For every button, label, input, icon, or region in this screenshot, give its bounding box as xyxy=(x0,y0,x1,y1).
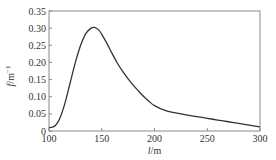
chart-canvas: 100150200250300 00.050.100.150.200.250.3… xyxy=(0,0,276,160)
y-tick-label: 0 xyxy=(41,126,46,137)
plot-frame xyxy=(49,11,260,131)
x-axis-label: l/m xyxy=(148,145,162,156)
line-chart: 100150200250300 00.050.100.150.200.250.3… xyxy=(0,0,276,160)
x-axis-ticks: 100150200250300 xyxy=(42,128,268,144)
y-tick-label: 0.20 xyxy=(29,57,47,68)
y-tick-label: 0.05 xyxy=(29,108,47,119)
y-tick-label: 0.35 xyxy=(29,6,47,17)
y-axis-ticks: 00.050.100.150.200.250.300.35 xyxy=(29,6,53,137)
y-tick-label: 0.30 xyxy=(29,23,47,34)
x-tick-label: 300 xyxy=(253,133,268,144)
x-tick-label: 200 xyxy=(147,133,162,144)
data-curve xyxy=(49,27,260,127)
y-tick-label: 0.15 xyxy=(29,74,47,85)
y-tick-label: 0.25 xyxy=(29,40,47,51)
y-axis-label: f/m−1 xyxy=(4,65,16,86)
x-tick-label: 250 xyxy=(200,133,215,144)
y-tick-label: 0.10 xyxy=(29,91,47,102)
x-tick-label: 150 xyxy=(94,133,109,144)
